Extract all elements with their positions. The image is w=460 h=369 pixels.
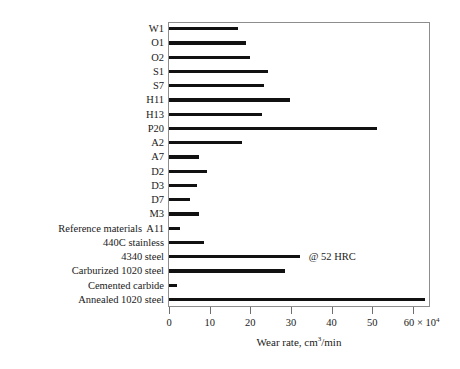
x-axis: Wear rate, cm3/min 0102030405060 × 104 (168, 307, 430, 369)
bar (169, 255, 300, 258)
bar (169, 113, 262, 116)
bar (169, 212, 199, 215)
bar (169, 56, 250, 59)
wear-rate-bar-chart: W1O1O2S1S7H11H13P20A2A7D2D3D7M3A11440C s… (0, 0, 460, 369)
bar-row: Carburized 1020 steel (0, 264, 460, 278)
bar (169, 241, 204, 244)
bar (169, 141, 242, 144)
category-label: H11 (0, 93, 164, 107)
bar (169, 184, 197, 187)
category-label: D2 (0, 165, 164, 179)
x-axis-tick-label: 50 (367, 316, 378, 329)
bar (169, 41, 246, 44)
x-axis-title-prefix: Wear rate, cm (257, 336, 318, 348)
category-label: Annealed 1020 steel (0, 293, 164, 307)
x-axis-tick-label: 60 × 104 (404, 316, 440, 329)
x-axis-tick (372, 307, 373, 314)
category-label: Carburized 1020 steel (0, 264, 164, 278)
category-label: A2 (0, 136, 164, 150)
bar-row: O1 (0, 36, 460, 50)
category-label: P20 (0, 122, 164, 136)
category-label: H13 (0, 108, 164, 122)
bar-row: Cemented carbide (0, 279, 460, 293)
bar (169, 298, 425, 301)
category-label: D7 (0, 193, 164, 207)
bar-row: 440C stainless (0, 236, 460, 250)
x-axis-tick (250, 307, 251, 314)
category-label: O1 (0, 36, 164, 50)
bar-row: A2 (0, 136, 460, 150)
x-axis-title: Wear rate, cm3/min (168, 336, 430, 348)
bar-row: Annealed 1020 steel (0, 293, 460, 307)
category-label: 440C stainless (0, 236, 164, 250)
group-label-reference-materials: Reference materials (22, 222, 142, 236)
x-axis-tick-label: 20 (245, 316, 256, 329)
bar-row: H13 (0, 108, 460, 122)
bar-row: S1 (0, 65, 460, 79)
bar-row: S7 (0, 79, 460, 93)
x-axis-tick (169, 307, 170, 314)
x-axis-title-suffix: /min (321, 336, 341, 348)
x-axis-tick (210, 307, 211, 314)
bar (169, 269, 285, 272)
bar-row: H11 (0, 93, 460, 107)
category-label: 4340 steel (0, 250, 164, 264)
bar-row: D2 (0, 165, 460, 179)
bar-row: D7 (0, 193, 460, 207)
category-label: W1 (0, 22, 164, 36)
bar (169, 170, 207, 173)
x-axis-tick (291, 307, 292, 314)
bar (169, 84, 264, 87)
bar-row: D3 (0, 179, 460, 193)
x-axis-tick-label: 0 (166, 316, 171, 329)
category-label: D3 (0, 179, 164, 193)
bar (169, 27, 238, 30)
bar-row: A7 (0, 150, 460, 164)
category-label: O2 (0, 51, 164, 65)
bar (169, 98, 290, 101)
bar (169, 227, 180, 230)
category-label: S1 (0, 65, 164, 79)
bar-row: W1 (0, 22, 460, 36)
bar-rows: W1O1O2S1S7H11H13P20A2A7D2D3D7M3A11440C s… (0, 22, 460, 307)
bar (169, 127, 377, 130)
x-axis-tick (332, 307, 333, 314)
x-axis-tick (413, 307, 414, 314)
bar (169, 155, 199, 158)
x-axis-tick-label: 30 (286, 316, 297, 329)
bar-annotation: @ 52 HRC (309, 250, 356, 264)
bar-row: 4340 steel@ 52 HRC (0, 250, 460, 264)
category-label: Cemented carbide (0, 279, 164, 293)
category-label: A7 (0, 150, 164, 164)
category-label: S7 (0, 79, 164, 93)
bar (169, 198, 190, 201)
category-label: M3 (0, 207, 164, 221)
bar-row: O2 (0, 51, 460, 65)
bar-row: P20 (0, 122, 460, 136)
bar (169, 70, 268, 73)
x-axis-tick-label: 10 (204, 316, 215, 329)
bar (169, 284, 177, 287)
x-axis-tick-label: 40 (326, 316, 337, 329)
bar-row: M3 (0, 207, 460, 221)
